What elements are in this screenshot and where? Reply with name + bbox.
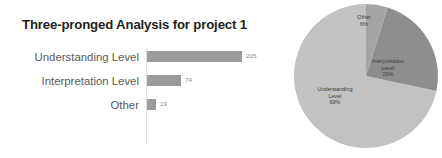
bar-rect-understanding-level xyxy=(147,51,242,62)
bar-rect-other xyxy=(147,99,156,110)
pie-label-line1: Interpretation xyxy=(360,58,416,65)
bar-chart-plot-area: Understanding Level 205 Interpretation L… xyxy=(0,44,290,144)
pie-label-percent: 69% xyxy=(306,99,364,106)
bar-category-label: Interpretation Level xyxy=(41,75,139,87)
bar-chart: Three-pronged Analysis for project 1 Und… xyxy=(0,0,290,158)
bar-value-label: 205 xyxy=(246,52,256,59)
pie-chart: Understanding Level 69% Interpretation L… xyxy=(290,0,442,158)
pie-label-line1: Other xyxy=(346,14,382,21)
pie-label-interpretation-level: Interpretation Level 25% xyxy=(360,58,416,78)
three-pronged-analysis-figure: Three-pronged Analysis for project 1 Und… xyxy=(0,0,442,158)
bar-rect-interpretation-level xyxy=(147,75,181,86)
bar-category-label: Other xyxy=(111,99,140,111)
pie-label-other: Other 6% xyxy=(346,14,382,27)
bar-value-label: 19 xyxy=(160,100,167,107)
pie-label-line2: Level xyxy=(360,65,416,72)
pie-label-percent: 6% xyxy=(346,21,382,28)
bar-row: Other 19 xyxy=(0,98,290,122)
bar-chart-title: Three-pronged Analysis for project 1 xyxy=(22,17,247,32)
bar-value-label: 74 xyxy=(185,76,192,83)
bar-row: Understanding Level 205 xyxy=(0,50,290,74)
pie-label-line2: Level xyxy=(306,93,364,100)
bar-category-label: Understanding Level xyxy=(35,51,140,63)
pie-label-line1: Understanding xyxy=(306,86,364,93)
pie-label-understanding-level: Understanding Level 69% xyxy=(306,86,364,106)
pie-label-percent: 25% xyxy=(360,71,416,78)
bar-row: Interpretation Level 74 xyxy=(0,74,290,98)
